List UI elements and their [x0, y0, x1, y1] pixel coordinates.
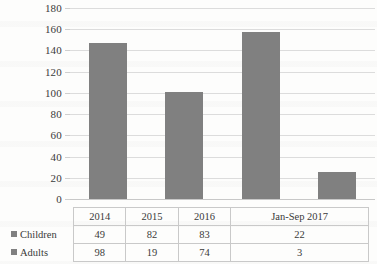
bar-slot [299, 0, 375, 208]
legend-square-icon [11, 231, 17, 237]
legend-item-adults[interactable]: Adults [8, 244, 74, 262]
y-axis-tick-label: 40 [8, 151, 62, 163]
y-axis-tick-label: 60 [8, 129, 62, 141]
y-axis-tick-label: 180 [8, 2, 62, 14]
y-axis-tick-label: 140 [8, 44, 62, 56]
bar-2016 [242, 32, 280, 199]
legend-item-children[interactable]: Children [8, 226, 74, 244]
bar-series-layer [70, 0, 375, 208]
legend-label: Children [20, 229, 57, 240]
y-axis-tick-label: 80 [8, 108, 62, 120]
table-row: Children49828322 [8, 226, 369, 244]
y-axis-tick-label: 160 [8, 23, 62, 35]
table-column-header: 2016 [178, 208, 230, 226]
table-header-row: 201420152016Jan-Sep 2017 [8, 208, 369, 226]
bar-slot [70, 0, 146, 208]
table-cell: 3 [231, 244, 369, 262]
y-axis-tick-label: 0 [8, 193, 62, 205]
y-axis-tick-labels: 180160140120100806040200 [8, 0, 62, 208]
bar-jan-sep-2017 [318, 172, 356, 199]
table-column-header: Jan-Sep 2017 [231, 208, 369, 226]
y-axis-tick-label: 100 [8, 87, 62, 99]
table-cell: 49 [74, 226, 126, 244]
y-axis-tick-label: 20 [8, 172, 62, 184]
bar-slot [146, 0, 222, 208]
chart-plot-area: 180160140120100806040200 [0, 0, 377, 208]
table-row: Adults9819743 [8, 244, 369, 262]
table-cell: 83 [178, 226, 230, 244]
y-axis-tick-label: 120 [8, 66, 62, 78]
table-corner-cell [8, 208, 74, 226]
table-cell: 19 [126, 244, 178, 262]
bar-2014 [89, 43, 127, 199]
table-column-header: 2014 [74, 208, 126, 226]
table-cell: 74 [178, 244, 230, 262]
bar-slot [223, 0, 299, 208]
chart-page: 180160140120100806040200 201420152016Jan… [0, 0, 377, 264]
bar-2015 [165, 92, 203, 199]
legend-label: Adults [20, 247, 48, 258]
table-cell: 22 [231, 226, 369, 244]
legend-square-icon [11, 249, 17, 255]
table-column-header: 2015 [126, 208, 178, 226]
table-cell: 98 [74, 244, 126, 262]
table-cell: 82 [126, 226, 178, 244]
chart-data-table: 201420152016Jan-Sep 2017Children49828322… [8, 207, 369, 262]
